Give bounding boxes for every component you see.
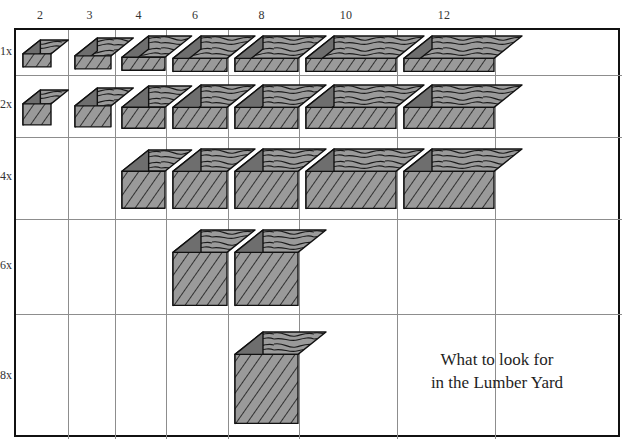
grid-line-horizontal — [16, 219, 622, 220]
caption-line-1: What to look for — [431, 349, 563, 372]
lumber-board-8x8 — [234, 331, 327, 424]
column-header-6: 6 — [192, 8, 198, 23]
column-header-4: 4 — [135, 8, 141, 23]
column-header-12: 12 — [438, 8, 450, 23]
lumber-board-2x12 — [403, 84, 523, 129]
grid-line-horizontal — [16, 314, 622, 315]
row-header-2x: 2x — [0, 97, 12, 112]
column-header-2: 2 — [37, 8, 43, 23]
grid-line-horizontal — [16, 137, 622, 138]
chart-caption: What to look for in the Lumber Yard — [431, 349, 563, 395]
row-header-1x: 1x — [0, 43, 12, 58]
lumber-board-1x2 — [22, 39, 69, 68]
lumber-board-4x12 — [403, 148, 523, 209]
row-header-4x: 4x — [0, 169, 12, 184]
row-header-6x: 6x — [0, 257, 12, 272]
lumber-board-6x8 — [234, 229, 327, 306]
caption-line-2: in the Lumber Yard — [431, 372, 563, 395]
lumber-board-1x12 — [403, 35, 523, 72]
row-header-8x: 8x — [0, 367, 12, 382]
grid-line-horizontal — [16, 75, 622, 76]
column-header-3: 3 — [86, 8, 92, 23]
lumber-board-2x2 — [22, 89, 69, 126]
column-header-8: 8 — [258, 8, 264, 23]
column-header-10: 10 — [340, 8, 352, 23]
lumber-size-chart: 234681012 1x2x4x6x8x What to look for in… — [0, 0, 634, 446]
